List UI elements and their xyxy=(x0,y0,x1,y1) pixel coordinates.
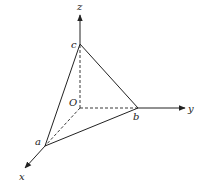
edge-c-a xyxy=(45,44,80,146)
x-axis-label: x xyxy=(19,171,25,182)
edge-O-a xyxy=(45,108,80,146)
edge-c-b xyxy=(80,44,138,108)
point-a-label: a xyxy=(35,136,41,147)
point-b-label: b xyxy=(133,111,139,122)
z-axis-label: z xyxy=(76,1,83,12)
x-axis xyxy=(25,146,45,168)
y-axis-label: y xyxy=(187,103,194,114)
edge-a-b xyxy=(45,108,138,146)
point-c-label: c xyxy=(71,39,77,50)
tetrahedron-diagram: z y x c O b a xyxy=(0,0,203,189)
origin-label: O xyxy=(69,97,77,108)
